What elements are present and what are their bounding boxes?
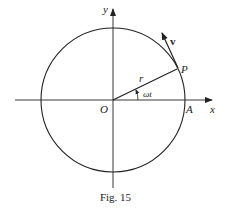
point-p-label: P (180, 63, 188, 75)
angle-arc-icon (136, 90, 138, 100)
y-axis-label: y (102, 3, 108, 15)
point-a-label: A (185, 103, 193, 115)
velocity-label: v (170, 35, 176, 47)
x-axis-label: x (209, 103, 215, 115)
angle-label: ωt (143, 89, 152, 99)
circular-motion-diagram: y x O A P r ωt v (0, 0, 231, 216)
origin-label: O (100, 103, 108, 115)
figure-caption: Fig. 15 (0, 191, 231, 203)
radius-label: r (139, 72, 144, 84)
